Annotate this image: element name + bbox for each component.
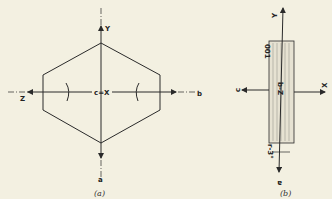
label-y: Y [104,25,111,33]
label-center: c=X [94,89,110,97]
label-a: a [98,176,103,184]
figure-a: Y a Z b c=X (a) [8,8,202,198]
caption-b: (b) [280,189,291,198]
label-z: Z [20,95,25,103]
b-label-face: 001 [263,44,271,59]
b-label-y: Y [271,12,279,19]
b-label-center: b-Z [276,82,284,95]
crystal-diagram: Y a Z b c=X (a) Y a c X b-Z 001 r-3° ( [0,0,332,199]
figure-b: Y a c X b-Z 001 r-3° (b) [234,8,329,198]
b-label-a: a [277,179,282,187]
b-label-c: c [234,88,242,92]
b-label-x: X [321,82,329,88]
b-label-angle: r-3° [266,144,274,159]
caption-a: (a) [94,189,105,198]
label-b: b [197,90,202,98]
